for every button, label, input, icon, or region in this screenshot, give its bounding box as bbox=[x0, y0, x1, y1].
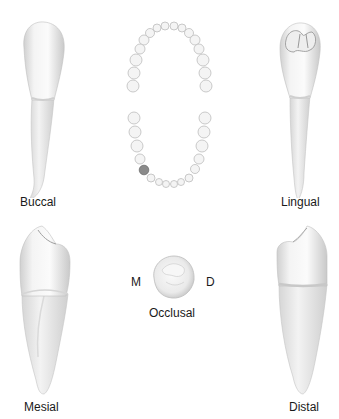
highlighted-tooth-marker bbox=[139, 165, 149, 175]
maxillary-arch bbox=[127, 22, 212, 92]
mesial-marker: M bbox=[131, 275, 141, 289]
lingual-view bbox=[270, 18, 330, 198]
occlusal-label: Occlusal bbox=[149, 306, 195, 320]
dental-arch-diagram bbox=[125, 18, 220, 210]
mesial-view bbox=[12, 222, 74, 402]
buccal-view bbox=[14, 18, 74, 198]
mandibular-arch bbox=[128, 112, 211, 188]
distal-marker: D bbox=[206, 275, 215, 289]
mesial-label: Mesial bbox=[24, 400, 59, 414]
occlusal-view bbox=[148, 252, 198, 302]
buccal-label: Buccal bbox=[20, 195, 56, 209]
lingual-tooth-illustration bbox=[270, 18, 330, 198]
distal-label: Distal bbox=[289, 400, 319, 414]
lingual-label: Lingual bbox=[281, 195, 320, 209]
occlusal-tooth-illustration bbox=[148, 252, 198, 302]
distal-view bbox=[273, 222, 333, 402]
buccal-tooth-illustration bbox=[14, 18, 74, 198]
distal-tooth-illustration bbox=[273, 222, 333, 402]
mesial-tooth-illustration bbox=[12, 222, 74, 402]
